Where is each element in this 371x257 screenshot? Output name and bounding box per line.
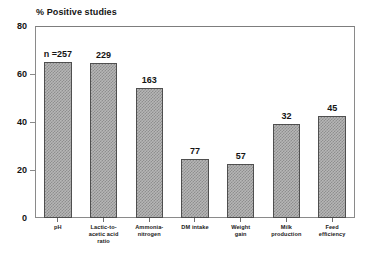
bar-group[interactable]: 45	[318, 26, 345, 218]
x-axis-category-line: production	[264, 231, 310, 238]
bar-group[interactable]: 77	[181, 26, 208, 218]
bar-group[interactable]: n =257	[44, 26, 71, 218]
bar[interactable]	[90, 63, 117, 218]
bar[interactable]	[44, 62, 71, 218]
x-tick-mark	[332, 218, 333, 222]
bar-value-label: 45	[304, 103, 359, 113]
x-axis-category-line: nitrogen	[126, 231, 172, 238]
bar[interactable]	[227, 164, 254, 218]
x-tick-mark	[194, 218, 195, 222]
x-axis-labels: pHLactic-to-acetic acidratioAmmonia-nitr…	[35, 224, 355, 257]
x-tick-mark	[240, 218, 241, 222]
x-axis-category-label: Milkproduction	[264, 224, 310, 238]
y-tick-label: 20	[17, 165, 27, 175]
x-axis-category-label: Weightgain	[218, 224, 264, 238]
y-axis: 020406080	[0, 0, 35, 257]
x-axis-category-line: Weight	[218, 224, 264, 231]
x-axis-category-line: Lactic-to-	[81, 224, 127, 231]
y-tick-label: 40	[17, 117, 27, 127]
x-tick-mark	[149, 218, 150, 222]
y-tick-label: 0	[22, 213, 27, 223]
x-axis-category-line: gain	[218, 231, 264, 238]
bar-value-label: 163	[122, 75, 177, 85]
x-axis-category-line: pH	[35, 224, 81, 231]
x-axis-category-label: Feedefficiency	[309, 224, 355, 238]
bar[interactable]	[273, 124, 300, 218]
x-axis-category-line: efficiency	[309, 231, 355, 238]
chart-title: % Positive studies	[36, 7, 117, 17]
x-axis-category-line: ratio	[81, 238, 127, 245]
x-tick-mark	[286, 218, 287, 222]
bar-group[interactable]: 229	[90, 26, 117, 218]
bar-value-label: 57	[213, 151, 268, 161]
bar-group[interactable]: 163	[136, 26, 163, 218]
y-tick-label: 80	[17, 21, 27, 31]
bar[interactable]	[136, 88, 163, 218]
bars-layer: n =25722916377573245	[35, 26, 355, 218]
bar-value-label: 229	[76, 50, 131, 60]
x-axis-category-label: Lactic-to-acetic acidratio	[81, 224, 127, 246]
x-tick-mark	[103, 218, 104, 222]
x-tick-mark	[57, 218, 58, 222]
x-axis-category-line: acetic acid	[81, 231, 127, 238]
bar-group[interactable]: 32	[273, 26, 300, 218]
x-axis-category-line: Milk	[264, 224, 310, 231]
bar-group[interactable]: 57	[227, 26, 254, 218]
bar[interactable]	[318, 116, 345, 218]
bar[interactable]	[181, 159, 208, 218]
x-axis-category-line: Ammonia-	[126, 224, 172, 231]
x-axis-category-label: Ammonia-nitrogen	[126, 224, 172, 238]
bar-chart-figure: % Positive studies 020406080 n =25722916…	[0, 0, 371, 257]
y-tick-label: 60	[17, 69, 27, 79]
x-axis-category-label: DM intake	[172, 224, 218, 231]
x-axis-category-line: Feed	[309, 224, 355, 231]
x-axis-category-line: DM intake	[172, 224, 218, 231]
x-axis-category-label: pH	[35, 224, 81, 231]
